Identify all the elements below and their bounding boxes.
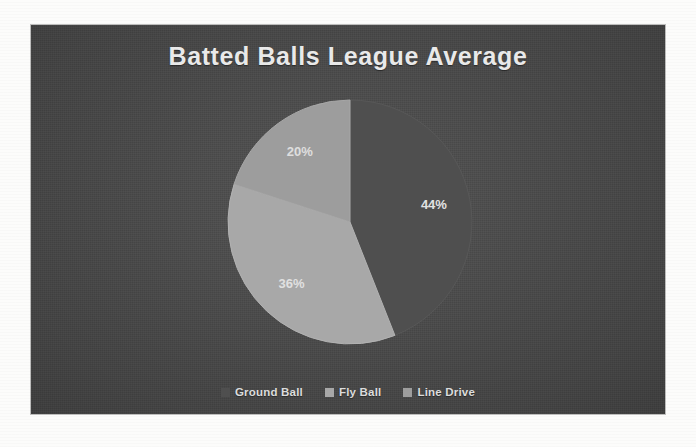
legend-swatch-icon-line-drive (403, 388, 412, 397)
legend-label-ground-ball: Ground Ball (235, 386, 303, 398)
chart-title: Batted Balls League Average (31, 42, 665, 71)
pie-label-line-drive: 20% (287, 144, 313, 159)
legend-item-line-drive[interactable]: Line Drive (403, 386, 475, 398)
pie-label-fly-ball: 36% (278, 276, 304, 291)
legend-item-fly-ball[interactable]: Fly Ball (325, 386, 382, 398)
legend-label-line-drive: Line Drive (417, 386, 475, 398)
legend-swatch-icon-fly-ball (325, 388, 334, 397)
chart-legend: Ground Ball Fly Ball Line Drive (31, 386, 665, 398)
pie-chart-svg: 44% 36% 20% (31, 25, 665, 414)
legend-swatch-icon-ground-ball (221, 388, 230, 397)
pie-label-ground-ball: 44% (421, 197, 447, 212)
chart-container: Batted Balls League Average 44% 36% 20% … (31, 25, 665, 414)
legend-item-ground-ball[interactable]: Ground Ball (221, 386, 303, 398)
legend-label-fly-ball: Fly Ball (339, 386, 382, 398)
pie-chart: 44% 36% 20% (31, 25, 665, 414)
